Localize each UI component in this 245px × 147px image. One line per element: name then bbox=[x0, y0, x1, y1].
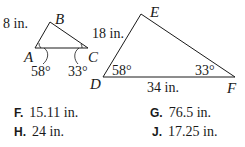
answer-key: G. bbox=[150, 106, 163, 120]
vertex-a-label: A bbox=[23, 49, 34, 65]
answer-choice-g[interactable]: G.76.5 in. bbox=[150, 105, 211, 121]
side-df-label: 34 in. bbox=[147, 80, 179, 95]
answer-choice-h[interactable]: H.24 in. bbox=[14, 124, 64, 140]
vertex-f-label: F bbox=[226, 80, 237, 96]
answer-key: H. bbox=[14, 125, 26, 139]
answer-value: 24 in. bbox=[32, 124, 64, 139]
angle-c-label: 33° bbox=[68, 64, 88, 79]
vertex-e-label: E bbox=[149, 4, 159, 20]
vertex-b-label: B bbox=[55, 11, 64, 27]
answer-value: 76.5 in. bbox=[169, 105, 211, 120]
answer-key: J. bbox=[152, 125, 162, 139]
angle-a-label: 58° bbox=[31, 64, 51, 79]
side-de-label: 18 in. bbox=[92, 26, 124, 41]
vertex-c-label: C bbox=[88, 49, 99, 65]
answer-value: 15.11 in. bbox=[29, 105, 78, 120]
triangle-def: 18 in. E D F 58° 33° 34 in. bbox=[89, 4, 237, 96]
vertex-d-label: D bbox=[89, 76, 101, 92]
angle-f-label: 33° bbox=[195, 63, 215, 78]
answer-choice-f[interactable]: F.15.11 in. bbox=[14, 105, 78, 121]
triangle-abc: 8 in. B A C 58° 33° bbox=[3, 11, 99, 79]
answer-key: F. bbox=[14, 106, 23, 120]
answer-choice-j[interactable]: J.17.25 in. bbox=[152, 124, 217, 140]
side-ab-label: 8 in. bbox=[3, 16, 28, 31]
answer-value: 17.25 in. bbox=[168, 124, 217, 139]
angle-d-label: 58° bbox=[112, 63, 132, 78]
